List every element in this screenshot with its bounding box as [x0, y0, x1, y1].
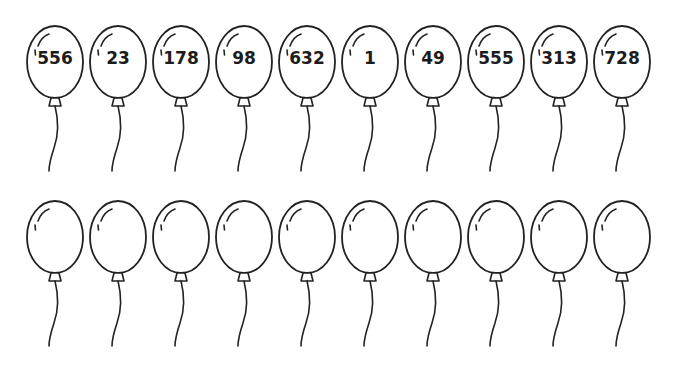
bottom-balloon-row [0, 197, 679, 357]
balloon-5: 632 [275, 22, 339, 182]
balloon-number: 555 [464, 46, 528, 70]
balloon-icon [86, 197, 150, 357]
top-balloon-row: 556 23 178 98 [0, 22, 679, 182]
balloon-icon [464, 197, 528, 357]
balloon-6 [338, 197, 402, 357]
balloon-9 [527, 197, 591, 357]
balloon-6: 1 [338, 22, 402, 182]
balloon-5 [275, 197, 339, 357]
balloon-number: 632 [275, 46, 339, 70]
balloon-1: 556 [23, 22, 87, 182]
balloon-7: 49 [401, 22, 465, 182]
balloon-number: 178 [149, 46, 213, 70]
balloon-icon [275, 197, 339, 357]
balloon-10 [590, 197, 654, 357]
balloon-10: 728 [590, 22, 654, 182]
balloon-number: 1 [338, 46, 402, 70]
balloon-3 [149, 197, 213, 357]
balloon-3: 178 [149, 22, 213, 182]
balloon-4 [212, 197, 276, 357]
balloon-8 [464, 197, 528, 357]
balloon-icon [338, 197, 402, 357]
balloon-number: 728 [590, 46, 654, 70]
balloon-7 [401, 197, 465, 357]
balloon-number: 313 [527, 46, 591, 70]
balloon-icon [527, 197, 591, 357]
balloon-icon [149, 197, 213, 357]
balloon-number: 23 [86, 46, 150, 70]
balloon-4: 98 [212, 22, 276, 182]
balloon-icon [212, 197, 276, 357]
balloon-number: 49 [401, 46, 465, 70]
balloon-2 [86, 197, 150, 357]
balloon-icon [590, 197, 654, 357]
balloon-number: 556 [23, 46, 87, 70]
balloon-9: 313 [527, 22, 591, 182]
balloon-icon [401, 197, 465, 357]
balloon-1 [23, 197, 87, 357]
balloon-number: 98 [212, 46, 276, 70]
balloon-icon [23, 197, 87, 357]
balloon-8: 555 [464, 22, 528, 182]
balloon-2: 23 [86, 22, 150, 182]
